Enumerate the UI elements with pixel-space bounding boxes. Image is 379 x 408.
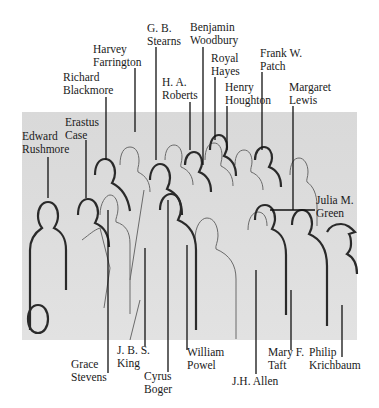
label-gb-stearns: G. B. Stearns <box>147 22 181 48</box>
label-jbs-king: J. B. S. King <box>117 344 150 370</box>
label-ha-roberts: H. A. Roberts <box>162 76 198 102</box>
label-edward-rushmore: Edward Rushmore <box>22 130 69 156</box>
label-benjamin-woodbury: Benjamin Woodbury <box>190 21 238 47</box>
label-cyrus-boger: Cyrus Boger <box>144 370 172 396</box>
label-william-powel: William Powel <box>187 346 224 372</box>
label-frank-w-patch: Frank W. Patch <box>260 47 302 73</box>
label-royal-hayes: Royal Hayes <box>211 52 240 78</box>
label-philip-krichbaum: Philip Krichbaum <box>309 346 361 372</box>
label-erastus-case: Erastus Case <box>65 116 99 142</box>
label-julia-m-green: Julia M. Green <box>316 194 354 220</box>
label-richard-blackmore: Richard Blackmore <box>63 71 113 97</box>
label-grace-stevens: Grace Stevens <box>71 358 107 384</box>
label-margaret-lewis: Margaret Lewis <box>289 81 331 107</box>
label-jh-allen: J.H. Allen <box>232 375 278 388</box>
label-mary-f-taft: Mary F. Taft <box>268 346 304 372</box>
label-harvey-farrington: Harvey Farrington <box>93 43 142 69</box>
label-henry-houghton: Henry Houghton <box>225 81 271 107</box>
